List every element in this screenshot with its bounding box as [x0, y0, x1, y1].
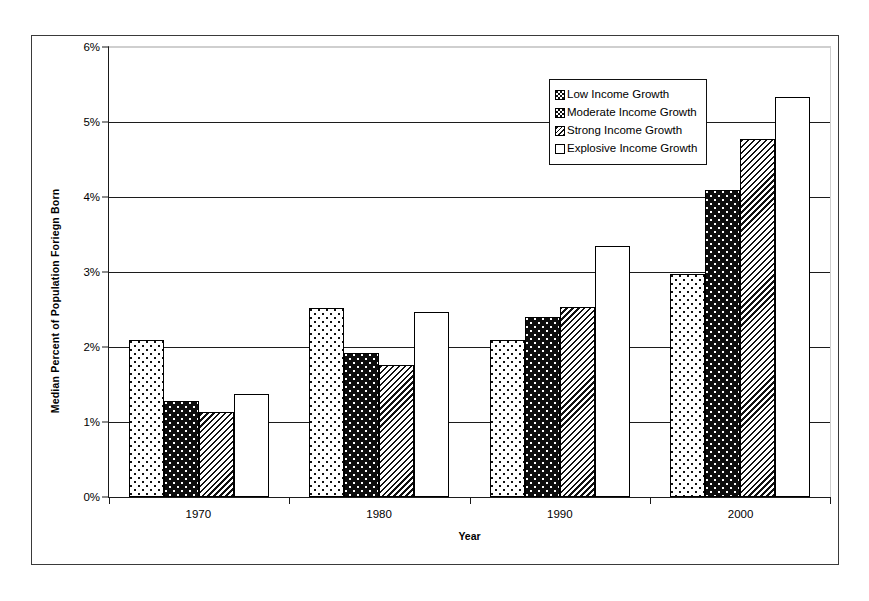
bar[interactable]: [705, 190, 740, 498]
bar[interactable]: [309, 308, 344, 497]
x-tick-label-2000: 2000: [671, 508, 811, 520]
x-tick-label-1980: 1980: [309, 508, 449, 520]
x-tick-mark: [650, 497, 651, 504]
y-tick-label: 0%: [83, 491, 109, 503]
legend-item[interactable]: Low Income Growth: [555, 86, 697, 104]
bar[interactable]: [414, 312, 449, 497]
legend-item[interactable]: Explosive Income Growth: [555, 140, 697, 158]
legend-label: Strong Income Growth: [567, 125, 682, 137]
legend-label: Explosive Income Growth: [567, 143, 697, 155]
y-tick-label: 4%: [83, 191, 109, 203]
bar[interactable]: [379, 365, 414, 497]
chart-page: Median Percent of Population Foriegn Bor…: [0, 0, 869, 601]
bar-group-1980: [309, 47, 449, 497]
legend-swatch-icon: [555, 108, 565, 118]
x-tick-mark: [109, 497, 110, 504]
legend-label: Moderate Income Growth: [567, 107, 697, 119]
y-tick-label: 1%: [83, 416, 109, 428]
y-tick-label: 6%: [83, 41, 109, 53]
legend-swatch-icon: [555, 90, 565, 100]
x-axis-tick-labels: 1970198019902000: [108, 508, 831, 520]
y-tick-label: 5%: [83, 116, 109, 128]
x-tick-label-1970: 1970: [128, 508, 268, 520]
y-tick-label: 3%: [83, 266, 109, 278]
chart-outer-frame: Median Percent of Population Foriegn Bor…: [31, 35, 839, 565]
bar[interactable]: [234, 394, 269, 498]
x-axis-title: Year: [108, 530, 831, 542]
plot-area: 0%1%2%3%4%5%6%: [108, 46, 831, 498]
legend-item[interactable]: Moderate Income Growth: [555, 104, 697, 122]
x-tick-mark: [289, 497, 290, 504]
bar[interactable]: [199, 412, 234, 497]
bar[interactable]: [740, 139, 775, 497]
bar[interactable]: [595, 246, 630, 497]
bar[interactable]: [129, 340, 164, 498]
bar-group-1970: [129, 47, 269, 497]
x-tick-mark: [470, 497, 471, 504]
bar[interactable]: [164, 401, 199, 497]
legend-swatch-icon: [555, 144, 565, 154]
legend-swatch-icon: [555, 126, 565, 136]
x-tick-label-1990: 1990: [490, 508, 630, 520]
y-axis-title: Median Percent of Population Foriegn Bor…: [42, 36, 68, 566]
bar[interactable]: [525, 317, 560, 497]
chart-legend: Low Income GrowthModerate Income GrowthS…: [549, 79, 707, 165]
legend-label: Low Income Growth: [567, 89, 669, 101]
bar[interactable]: [490, 340, 525, 498]
bar[interactable]: [670, 274, 705, 497]
y-tick-label: 2%: [83, 341, 109, 353]
bar[interactable]: [775, 97, 810, 497]
bars-layer: [109, 47, 830, 497]
legend-item[interactable]: Strong Income Growth: [555, 122, 697, 140]
bar[interactable]: [344, 353, 379, 497]
x-tick-mark: [830, 497, 831, 504]
bar[interactable]: [560, 307, 595, 497]
